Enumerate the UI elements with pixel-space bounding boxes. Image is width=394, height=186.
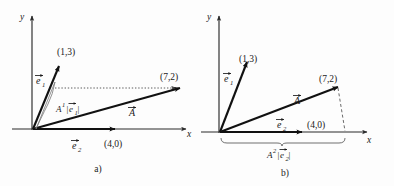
coord-label-1-3-b: (1,3) <box>239 54 257 65</box>
vector-label-A-a: A <box>128 106 136 118</box>
y-axis-label-b: y <box>206 12 212 22</box>
vector-label-e2-letter-a: e <box>72 140 77 151</box>
vector-label-A-b: A <box>293 94 301 106</box>
vector-label-e1-b: e 1 <box>223 72 233 86</box>
vector-label-e1-letter-b: e <box>224 73 229 84</box>
projection-magnitude-a: e <box>69 104 73 114</box>
vector-label-e2-a: e 2 <box>71 139 82 153</box>
panel-a: y x (1,3) (7,2) (4,0) e 1 e 2 <box>0 0 197 186</box>
caption-b: b) <box>281 168 289 179</box>
y-axis-label-a: y <box>19 12 25 22</box>
vector-label-e1-a: e 1 <box>35 74 45 88</box>
coord-label-4-0-a: (4,0) <box>104 139 122 150</box>
projection-label-a: A 1 | e 1 | <box>55 101 79 116</box>
caption-a: a) <box>94 164 101 175</box>
projection-bar-right-b: | <box>288 150 290 160</box>
vector-decomposition-figure: y x (1,3) (7,2) (4,0) e 1 e 2 <box>0 0 394 186</box>
vector-label-e1-letter-a: e <box>36 75 41 86</box>
projection-magnitude-b: e <box>280 150 284 160</box>
brace-b <box>221 138 345 146</box>
coord-label-1-3-a: (1,3) <box>57 47 75 58</box>
vector-label-e2-b: e 2 <box>276 118 287 132</box>
projection-coefficient-a: A <box>55 104 62 114</box>
vector-label-e1-sub-a: 1 <box>42 81 45 88</box>
vector-label-A-letter-b: A <box>293 95 301 106</box>
coord-label-4-0-b: (4,0) <box>307 120 325 131</box>
guide-dashed-drop-b <box>338 88 345 131</box>
projection-bar-right-a: | <box>77 104 79 114</box>
vector-label-e2-sub-a: 2 <box>78 146 82 153</box>
projection-superscript-a: 1 <box>62 101 65 108</box>
x-axis-label-a: x <box>186 129 192 139</box>
vector-label-A-letter-a: A <box>128 107 136 118</box>
coord-label-7-2-b: (7,2) <box>319 74 337 85</box>
coord-label-7-2-a: (7,2) <box>160 72 178 83</box>
vector-label-e1-sub-b: 1 <box>230 79 233 86</box>
x-axis-label-b: x <box>366 135 372 145</box>
vector-label-e2-letter-b: e <box>277 119 282 130</box>
panel-b: y x (1,3) (7,2) (4,0) e 1 e 2 <box>197 0 394 186</box>
projection-coefficient-b: A <box>266 150 273 160</box>
projection-label-b: A 2 | e 2 | <box>266 147 290 162</box>
